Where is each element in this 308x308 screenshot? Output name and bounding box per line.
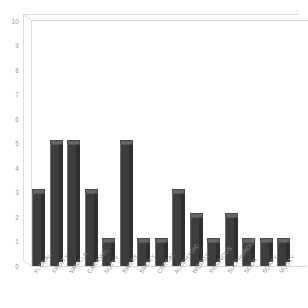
bar-chart: 012345678910 FLORALFRUITYVANILLACARAMELN… [0, 0, 308, 308]
y-axis-tick-7: 7 [0, 91, 19, 98]
y-axis-tick-4: 4 [0, 165, 19, 172]
y-axis-tick-8: 8 [0, 67, 19, 74]
y-axis-tick-6: 6 [0, 116, 19, 123]
plot-top-depth-edge [23, 14, 300, 15]
plot-back-wall [31, 20, 308, 267]
y-axis-tick-5: 5 [0, 140, 19, 147]
y-axis-tick-1: 1 [0, 238, 19, 245]
y-axis-tick-3: 3 [0, 189, 19, 196]
y-axis-tick-0: 0 [0, 263, 19, 270]
plot-left-depth-edge [23, 14, 24, 260]
y-axis-tick-9: 9 [0, 42, 19, 49]
y-axis-tick-10: 10 [0, 18, 19, 25]
y-axis-tick-2: 2 [0, 214, 19, 221]
